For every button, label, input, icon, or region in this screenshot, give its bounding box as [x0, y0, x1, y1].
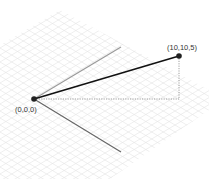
isometric-grid: [0, 0, 209, 179]
vector-diagram: (0,0,0) (10,10,5): [0, 0, 209, 179]
endpoint-label: (10,10,5): [167, 43, 198, 52]
origin-point: [31, 96, 37, 102]
origin-label: (0,0,0): [15, 105, 37, 114]
endpoint-point: [176, 53, 182, 59]
